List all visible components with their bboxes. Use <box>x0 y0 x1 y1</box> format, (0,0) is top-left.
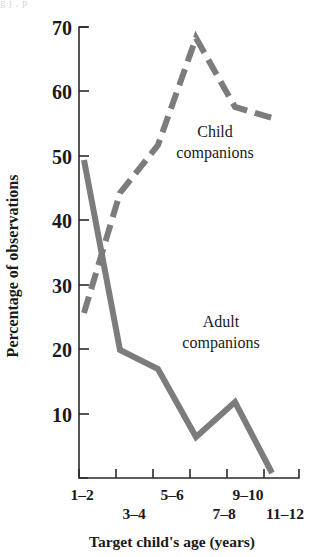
y-tick-label-50: 50 <box>52 146 72 168</box>
series-line-child-companions <box>84 38 272 313</box>
series-label-adult-companions: Adult companions <box>182 313 259 352</box>
series-label-adult-line1: Adult <box>203 313 240 330</box>
x-axis-tick-labels: 1–2 3–4 5–6 7–8 9–10 11–12 <box>70 486 304 522</box>
y-axis-ticks <box>79 27 89 414</box>
line-chart-svg: Percentage of observations 70 60 50 40 3… <box>0 0 311 557</box>
y-tick-label-10: 10 <box>52 404 72 426</box>
x-tick-label-7-8: 7–8 <box>212 505 236 522</box>
series-label-child-line1: Child <box>197 123 233 140</box>
y-axis-tick-labels: 70 60 50 40 30 20 10 <box>52 17 72 426</box>
y-tick-label-40: 40 <box>52 210 72 232</box>
y-tick-label-30: 30 <box>52 275 72 297</box>
y-axis-title: Percentage of observations <box>4 175 22 358</box>
series-label-child-line2: companions <box>176 144 253 162</box>
y-tick-label-60: 60 <box>52 81 72 103</box>
x-axis-spine <box>79 469 299 478</box>
chart-figure: g j , p Percentage of observations <box>0 0 311 557</box>
x-tick-label-9-10: 9–10 <box>233 486 264 503</box>
y-axis-title-text: Percentage of observations <box>4 175 22 358</box>
series-label-child-companions: Child companions <box>176 123 253 162</box>
x-tick-label-3-4: 3–4 <box>122 505 146 522</box>
y-tick-label-70: 70 <box>52 17 72 39</box>
x-tick-label-1-2: 1–2 <box>70 486 94 503</box>
x-axis-ticks <box>79 469 264 478</box>
cut-off-header-text: g j , p <box>0 0 311 8</box>
x-axis-title-text: Target child's age (years) <box>89 533 255 551</box>
x-tick-label-5-6: 5–6 <box>160 486 184 503</box>
series-label-adult-line2: companions <box>182 334 259 352</box>
x-tick-label-11-12: 11–12 <box>266 505 304 522</box>
y-axis-spine <box>79 27 88 478</box>
axis-lines <box>79 27 299 478</box>
y-tick-label-20: 20 <box>52 339 72 361</box>
series-line-adult-companions <box>84 160 272 473</box>
